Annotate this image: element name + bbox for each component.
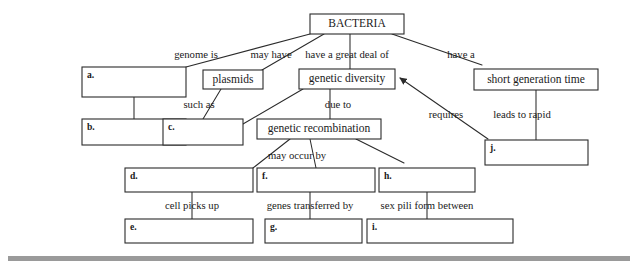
- node-short-generation-time: short generation time: [474, 69, 598, 90]
- link-label-may-have: may have: [250, 48, 292, 60]
- answer-box-f[interactable]: f.: [257, 168, 375, 192]
- link-label-such-as: such as: [183, 98, 214, 110]
- node-genetic-recombination: genetic recombination: [257, 119, 381, 139]
- answer-box-a[interactable]: a.: [82, 67, 186, 97]
- link-label-genes-transferred-by: genes transferred by: [267, 199, 354, 211]
- answer-box-i[interactable]: i.: [367, 219, 513, 243]
- answer-letter-j: j.: [489, 142, 496, 153]
- answer-box-rect-f[interactable]: [257, 168, 375, 192]
- node-label-genetic-diversity: genetic diversity: [309, 72, 386, 85]
- answer-box-rect-g[interactable]: [265, 219, 362, 243]
- link-label-genome-is: genome is: [174, 48, 218, 60]
- answer-letter-a: a.: [87, 69, 94, 80]
- link-label-may-occur-by: may occur by: [268, 149, 327, 161]
- answer-box-rect-e[interactable]: [125, 219, 253, 243]
- answer-letter-d: d.: [130, 170, 138, 181]
- answer-box-j[interactable]: j.: [485, 140, 588, 165]
- answer-letter-e: e.: [130, 221, 137, 232]
- connector-recombination-to-h: [356, 139, 404, 163]
- answer-box-d[interactable]: d.: [125, 168, 253, 192]
- answer-box-g[interactable]: g.: [265, 219, 362, 243]
- answer-box-rect-c[interactable]: [163, 119, 243, 145]
- answer-box-rect-j[interactable]: [485, 140, 588, 165]
- answer-box-rect-a[interactable]: [82, 67, 186, 97]
- answer-box-rect-h[interactable]: [379, 168, 475, 192]
- link-label-requires: requires: [429, 108, 463, 120]
- answer-letter-f: f.: [262, 170, 268, 181]
- node-genetic-diversity: genetic diversity: [299, 69, 395, 89]
- link-label-cell-picks-up: cell picks up: [165, 199, 219, 211]
- footer-rule-layer: [8, 256, 630, 261]
- link-label-due-to: due to: [325, 98, 351, 110]
- answer-box-h[interactable]: h.: [379, 168, 475, 192]
- answer-letter-g: g.: [270, 221, 277, 232]
- concept-map-diagram: plasmidsgenetic diversityshort generatio…: [0, 0, 638, 276]
- answer-letter-h: h.: [384, 170, 392, 181]
- link-label-leads-to-rapid: leads to rapid: [493, 108, 551, 120]
- node-label-short-generation-time: short generation time: [487, 73, 585, 86]
- footer-rule: [8, 256, 630, 261]
- answer-box-rect-i[interactable]: [367, 219, 513, 243]
- concept-map-container: plasmidsgenetic diversityshort generatio…: [0, 0, 638, 276]
- answer-box-e[interactable]: e.: [125, 219, 253, 243]
- link-label-sex-pili-form-between: sex pili form between: [381, 199, 475, 211]
- answer-box-layer: a.b.c.d.e.f.g.h.i.j.: [82, 67, 588, 243]
- answer-letter-b: b.: [87, 121, 95, 132]
- answer-letter-c: c.: [168, 121, 175, 132]
- node-label-genetic-recombination: genetic recombination: [268, 122, 371, 135]
- node-label-bacteria: BACTERIA: [328, 17, 386, 29]
- link-label-have-a-great-deal-of: have a great deal of: [305, 48, 389, 60]
- link-label-have-a: have a: [447, 48, 475, 60]
- answer-box-c[interactable]: c.: [163, 119, 243, 145]
- node-plasmids: plasmids: [203, 70, 263, 89]
- answer-letter-i: i.: [372, 221, 377, 232]
- node-label-plasmids: plasmids: [213, 73, 254, 86]
- answer-box-rect-d[interactable]: [125, 168, 253, 192]
- node-root-bacteria: BACTERIA: [310, 14, 404, 34]
